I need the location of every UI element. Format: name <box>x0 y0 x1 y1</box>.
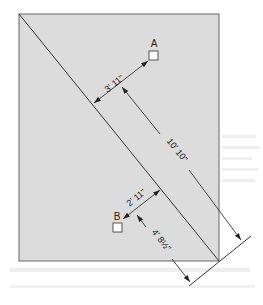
point-a-label: A <box>151 38 158 49</box>
point-b-label: B <box>114 211 121 222</box>
point-a-marker <box>149 51 158 60</box>
dimension-diagram: 3' 11" 10' 10" 2' 11" 4' 8½" A B <box>0 0 263 305</box>
point-b-marker <box>113 223 122 232</box>
